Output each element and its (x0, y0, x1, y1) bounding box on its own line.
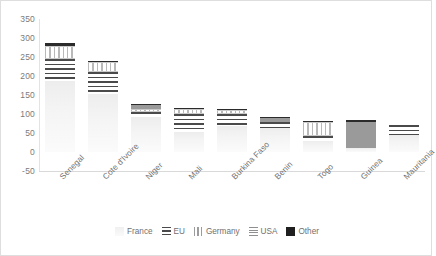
bar-segment-eu (389, 125, 419, 134)
y-tick-label: 250 (3, 52, 35, 62)
stacked-bar[interactable] (174, 108, 204, 152)
legend-item-germany[interactable]: Germany (194, 227, 240, 236)
legend-swatch-france-icon (115, 227, 124, 236)
bar-segment-eu (217, 114, 247, 126)
legend-item-eu[interactable]: EU (162, 227, 185, 236)
legend-swatch-eu-icon (162, 227, 171, 236)
x-tick-label: Mauritania (402, 147, 436, 181)
bar-segment-france (389, 135, 419, 152)
bar-segment-france (88, 94, 118, 152)
y-axis: 350300250200150100500-50 (1, 1, 35, 256)
chart-legend: FranceEUGermanyUSAOther (1, 227, 433, 236)
stacked-bar[interactable] (88, 61, 118, 152)
bar-segment-eu (88, 72, 118, 94)
x-tick-slot: Mali (168, 173, 211, 233)
y-tick-label: 200 (3, 71, 35, 81)
y-tick-label: 0 (3, 147, 35, 157)
stacked-bar[interactable] (303, 121, 333, 152)
bar-group (82, 19, 125, 152)
x-axis-labels: SenegalCote d'IvoireNigerMaliBurkina Fas… (39, 173, 425, 233)
x-tick-label: Guinea (359, 156, 384, 181)
bar-group (168, 19, 211, 152)
bar-group (211, 19, 254, 152)
plot-area (39, 19, 425, 152)
legend-swatch-other-icon (286, 227, 295, 236)
legend-swatch-usa-icon (249, 227, 258, 236)
bar-segment-germany (303, 122, 333, 136)
bar-segment-germany (88, 62, 118, 72)
x-tick-slot: Togo (296, 173, 339, 233)
legend-label: Germany (206, 227, 240, 236)
bar-group (125, 19, 168, 152)
bar-segment-eu (45, 59, 75, 81)
y-tick-label: 100 (3, 109, 35, 119)
legend-item-usa[interactable]: USA (249, 227, 278, 236)
bar-group (39, 19, 82, 152)
x-tick-slot: Niger (125, 173, 168, 233)
stacked-bar[interactable] (45, 43, 75, 152)
bar-segment-france (174, 132, 204, 152)
x-tick-slot: Senegal (39, 173, 82, 233)
legend-label: France (127, 227, 152, 236)
y-tick-label: 150 (3, 90, 35, 100)
bar-segment-eu (174, 114, 204, 132)
bar-group (253, 19, 296, 152)
x-tick-slot: Cote d'Ivoire (82, 173, 125, 233)
legend-item-france[interactable]: France (115, 227, 152, 236)
x-tick-label: Mali (187, 164, 204, 181)
bar-group (382, 19, 425, 152)
legend-label: Other (298, 227, 318, 236)
bar-segment-usa (346, 122, 376, 149)
x-tick-slot: Benin (253, 173, 296, 233)
legend-swatch-germany-icon (194, 227, 203, 236)
bar-segment-france (217, 126, 247, 152)
bar-segment-france (346, 148, 376, 152)
y-tick-label: 350 (3, 14, 35, 24)
x-tick-slot: Burkina Faso (211, 173, 254, 233)
stacked-bar[interactable] (389, 125, 419, 152)
bar-segment-france (45, 81, 75, 152)
stacked-bar[interactable] (217, 109, 247, 152)
bar-segment-germany (45, 46, 75, 59)
y-tick-label: 50 (3, 128, 35, 138)
y-tick-label: -50 (3, 166, 35, 176)
bar-group (296, 19, 339, 152)
bar-segment-france (303, 141, 333, 152)
x-tick-slot: Guinea (339, 173, 382, 233)
y-tick-label: 300 (3, 33, 35, 43)
stacked-bar[interactable] (346, 120, 376, 152)
x-tick-slot: Mauritania (382, 173, 425, 233)
legend-label: USA (261, 227, 278, 236)
legend-item-other[interactable]: Other (286, 227, 318, 236)
legend-label: EU (174, 227, 185, 236)
bar-group (339, 19, 382, 152)
